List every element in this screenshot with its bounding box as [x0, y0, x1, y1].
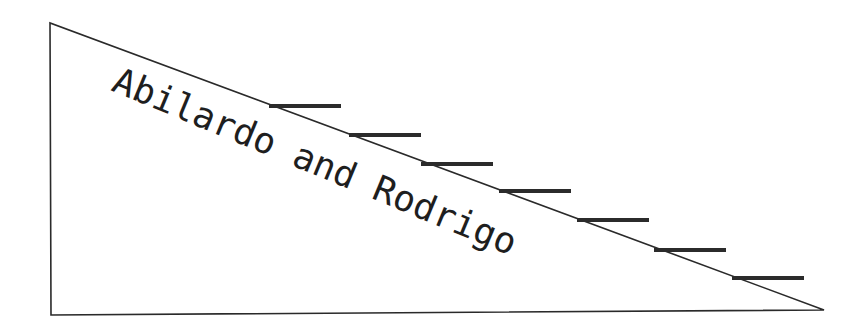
diagram-label: Abilardo and Rodrigo [107, 60, 523, 264]
step-bar-4 [499, 189, 571, 193]
diagram-svg: Abilardo and Rodrigo [0, 0, 868, 331]
step-bar-6 [654, 248, 726, 252]
step-bar-7 [732, 276, 804, 280]
step-bar-2 [349, 133, 421, 137]
step-bar-5 [577, 218, 649, 222]
right-triangle [50, 23, 824, 315]
diagram-canvas: Abilardo and Rodrigo [0, 0, 868, 331]
step-bar-1 [269, 104, 341, 108]
step-bar-3 [421, 162, 493, 166]
